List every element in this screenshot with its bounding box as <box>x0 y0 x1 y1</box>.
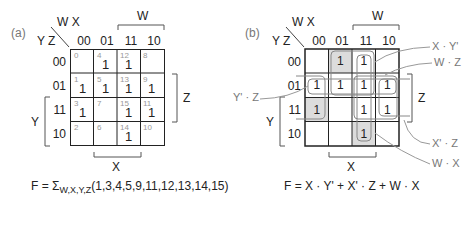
cell-value: 1 <box>305 103 329 117</box>
cell-value: 1 <box>376 78 400 92</box>
kmap-cell: 1 <box>352 49 376 73</box>
callout-w-z: W · Z <box>434 56 461 68</box>
callout-y-prime-z: Y' · Z <box>233 91 259 103</box>
kmap-cell <box>376 49 400 73</box>
cell-value: 1 <box>352 127 376 141</box>
kmap-cell: 1 <box>376 98 400 122</box>
cell-value: 1 <box>329 78 353 92</box>
callout-w-x: W · X <box>432 157 460 169</box>
callout-x-prime-z: X' · Z <box>432 137 458 149</box>
kmap-cell: 1 <box>376 73 400 97</box>
kmap-cell <box>376 122 400 146</box>
cell-value: 1 <box>305 78 329 92</box>
formula-b: F = X · Y' + X' · Z + W · X <box>284 179 419 193</box>
kmap-cell <box>305 49 329 73</box>
kmap-grid-b: 1 1 1 1 1 1 1 1 1 1 <box>305 49 399 146</box>
kmap-cell: 1 <box>329 49 353 73</box>
kmap-cell <box>305 122 329 146</box>
kmap-cell: 1 <box>305 73 329 97</box>
kmap-cell: 1 <box>352 122 376 146</box>
kmap-cell: 1 <box>352 98 376 122</box>
cell-value: 1 <box>352 103 376 117</box>
cell-value: 1 <box>376 103 400 117</box>
cell-value: 1 <box>352 78 376 92</box>
kmap-cell: 1 <box>305 98 329 122</box>
callout-x-y-prime: X · Y' <box>432 40 458 52</box>
cell-value: 1 <box>352 54 376 68</box>
kmap-cell <box>329 98 353 122</box>
kmap-cell <box>329 122 353 146</box>
kmap-cell: 1 <box>352 73 376 97</box>
cell-value: 1 <box>329 54 353 68</box>
kmap-cell: 1 <box>329 73 353 97</box>
